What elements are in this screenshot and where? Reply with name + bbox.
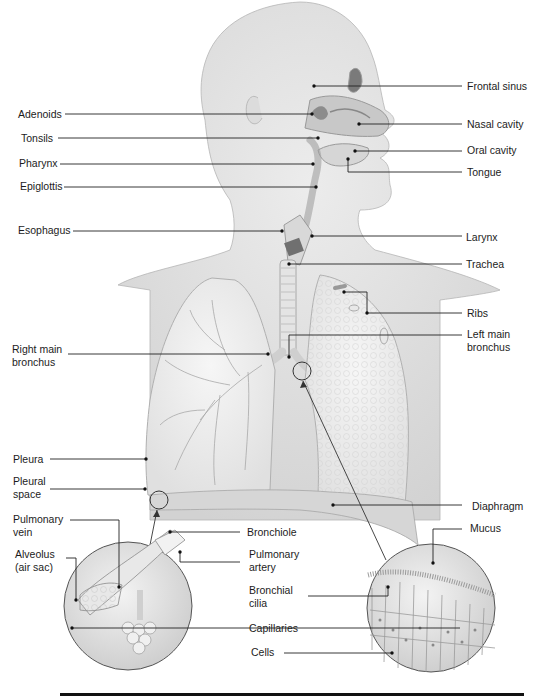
label-pleural-space: Pleural space [13, 475, 46, 501]
bottom-rule [60, 693, 524, 696]
label-cells: Cells [251, 646, 274, 659]
label-esophagus: Esophagus [18, 224, 71, 237]
label-nasal-cavity: Nasal cavity [467, 118, 524, 131]
label-tonsils: Tonsils [21, 132, 53, 145]
label-diaphragm: Diaphragm [472, 500, 523, 513]
label-frontal-sinus: Frontal sinus [467, 80, 527, 93]
label-trachea: Trachea [466, 258, 504, 271]
label-larynx: Larynx [466, 231, 498, 244]
label-pharynx: Pharynx [19, 157, 58, 170]
label-adenoids: Adenoids [18, 108, 62, 121]
label-pleura: Pleura [13, 453, 43, 466]
label-bronchiole: Bronchiole [247, 526, 297, 539]
label-bronchial-cilia: Bronchial cilia [249, 584, 293, 610]
label-pulmonary-artery: Pulmonary artery [249, 548, 299, 574]
label-alveolus: Alveolus (air sac) [15, 548, 55, 574]
label-ribs: Ribs [467, 307, 488, 320]
label-tongue: Tongue [467, 166, 501, 179]
label-capillaries: Capillaries [249, 622, 298, 635]
label-left-main-bronchus: Left main bronchus [467, 328, 510, 354]
alveolus-enlargement [64, 530, 192, 670]
label-right-main-bronchus: Right main bronchus [12, 343, 62, 369]
label-epiglottis: Epiglottis [20, 180, 63, 193]
label-mucus: Mucus [470, 522, 501, 535]
label-pulmonary-vein: Pulmonary vein [13, 513, 63, 539]
label-oral-cavity: Oral cavity [467, 144, 517, 157]
